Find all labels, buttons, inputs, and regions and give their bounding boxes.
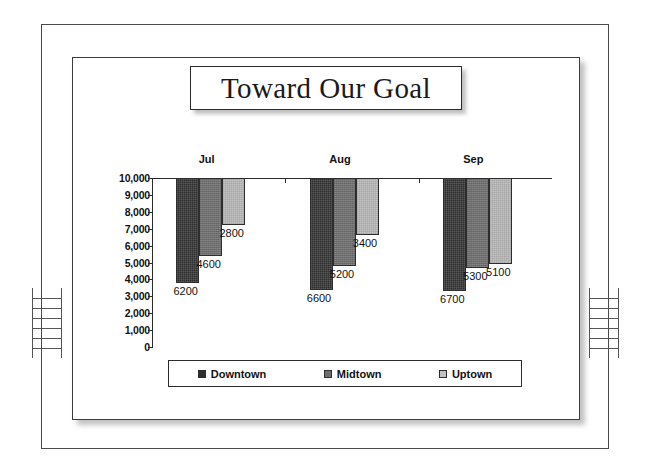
bar-value-label: 6600 <box>307 292 331 304</box>
y-axis-tick-label: 7,000 <box>125 223 150 235</box>
ladder-rung <box>33 328 61 329</box>
legend-swatch-icon <box>439 370 447 378</box>
bar-midtown-sep <box>466 178 489 268</box>
y-axis-tick-label: 1,000 <box>125 324 150 336</box>
bar-value-label: 5100 <box>486 266 510 278</box>
chart-legend: DowntownMidtownUptown <box>168 360 522 387</box>
y-axis-tick-label: 2,000 <box>125 307 150 319</box>
legend-item-uptown[interactable]: Uptown <box>439 368 492 380</box>
y-axis-tick <box>148 279 153 280</box>
ladder-rung <box>33 308 61 309</box>
y-axis-tick-label: 3,000 <box>125 290 150 302</box>
legend-swatch-icon <box>198 370 206 378</box>
y-axis-tick-label: 10,000 <box>119 172 150 184</box>
binder-ladder-right-icon <box>589 288 619 358</box>
y-axis-tick-label: 6,000 <box>125 240 150 252</box>
bar-value-label: 5300 <box>463 270 487 282</box>
bar-uptown-aug <box>356 178 379 235</box>
ladder-rung <box>33 318 61 319</box>
y-axis-tick <box>148 330 153 331</box>
y-axis-tick <box>148 229 153 230</box>
y-axis-tick <box>148 347 153 348</box>
y-axis-tick <box>148 195 153 196</box>
category-label: Sep <box>463 153 483 165</box>
page-title: Toward Our Goal <box>221 72 431 105</box>
y-axis-tick-label: 8,000 <box>125 206 150 218</box>
chart-title-box: Toward Our Goal <box>190 66 462 110</box>
ladder-rung <box>590 348 618 349</box>
category-label: Jul <box>199 153 215 165</box>
ladder-rung <box>590 308 618 309</box>
y-axis-line <box>152 178 153 347</box>
legend-item-midtown[interactable]: Midtown <box>324 368 382 380</box>
y-axis-tick <box>148 313 153 314</box>
legend-label: Downtown <box>211 368 267 380</box>
ladder-rung <box>590 298 618 299</box>
y-axis-tick <box>148 246 153 247</box>
ladder-rung <box>590 338 618 339</box>
y-axis-tick-label: 9,000 <box>125 189 150 201</box>
y-axis-tick-label: 5,000 <box>125 257 150 269</box>
legend-label: Midtown <box>337 368 382 380</box>
bar-midtown-jul <box>199 178 222 256</box>
y-axis-tick <box>148 212 153 213</box>
bar-uptown-jul <box>222 178 245 225</box>
y-axis-tick <box>148 263 153 264</box>
legend-label: Uptown <box>452 368 492 380</box>
bar-value-label: 4600 <box>196 258 220 270</box>
bar-value-label: 6200 <box>173 285 197 297</box>
ladder-rung <box>590 328 618 329</box>
bar-value-label: 3400 <box>353 237 377 249</box>
chart-plot-area: 10,0009,0008,0007,0006,0005,0004,0003,00… <box>88 145 558 355</box>
bar-midtown-aug <box>333 178 356 266</box>
y-axis-tick-label: 4,000 <box>125 273 150 285</box>
bar-uptown-sep <box>489 178 512 264</box>
bar-value-label: 2800 <box>219 227 243 239</box>
legend-item-downtown[interactable]: Downtown <box>198 368 267 380</box>
category-separator-tick <box>285 178 286 183</box>
ladder-rung <box>590 318 618 319</box>
ladder-rung <box>33 298 61 299</box>
category-label: Aug <box>329 153 350 165</box>
bar-value-label: 5200 <box>330 268 354 280</box>
y-axis-labels: 10,0009,0008,0007,0006,0005,0004,0003,00… <box>88 145 150 355</box>
ladder-rung <box>33 338 61 339</box>
binder-ladder-left-icon <box>32 288 62 358</box>
legend-swatch-icon <box>324 370 332 378</box>
ladder-rung <box>33 348 61 349</box>
category-separator-tick <box>419 178 420 183</box>
y-axis-tick <box>148 296 153 297</box>
bar-value-label: 6700 <box>440 293 464 305</box>
